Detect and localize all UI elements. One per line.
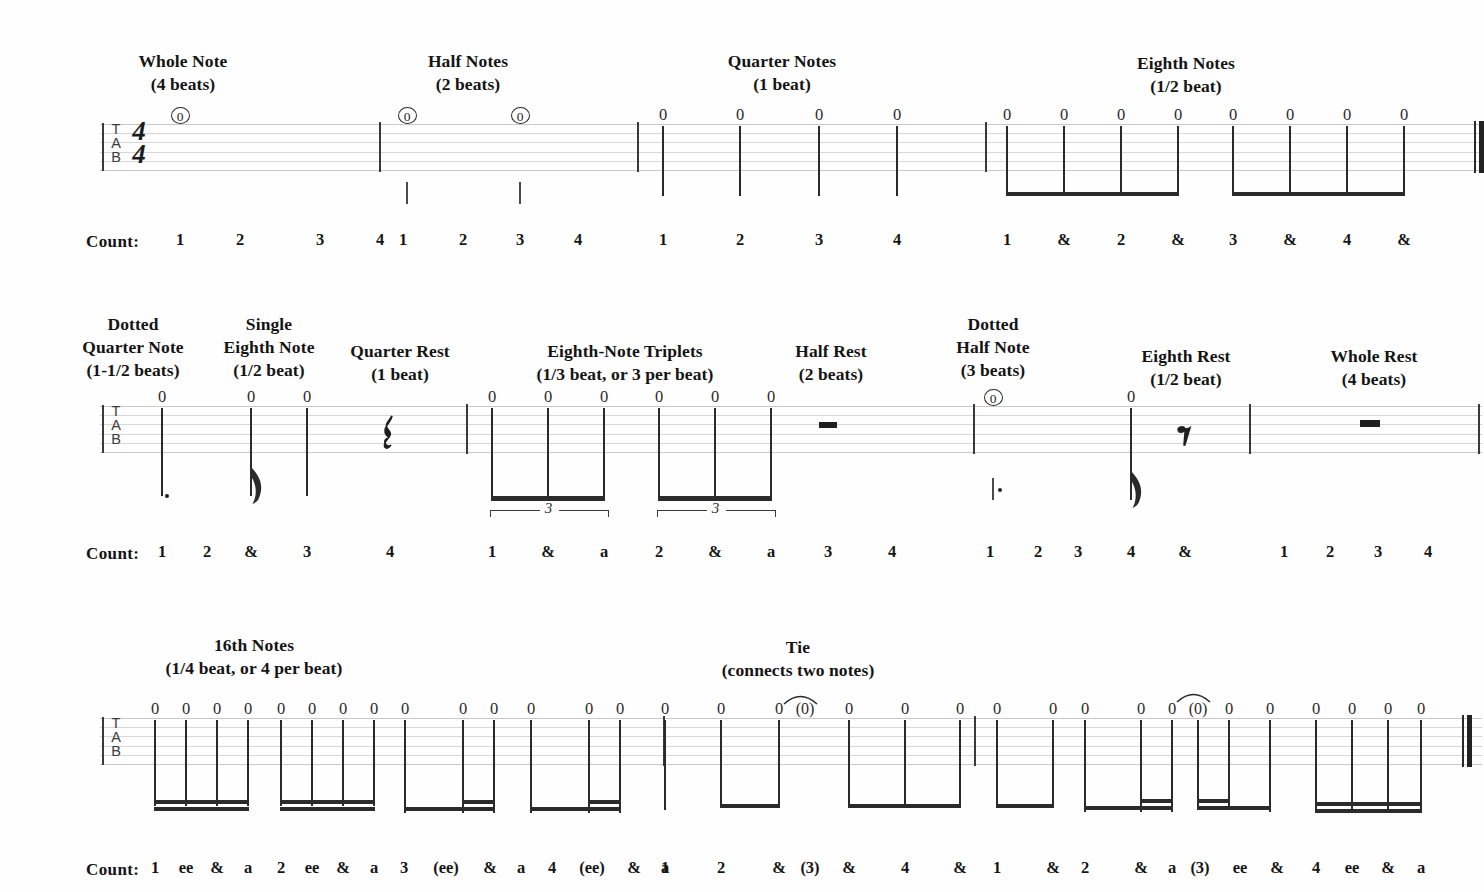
beam [404, 807, 495, 811]
fret-number: 0 [1305, 701, 1327, 717]
label-title: Half Notes [373, 50, 563, 73]
count-beat: & [200, 860, 234, 876]
fret-number: 0 [175, 701, 197, 717]
fret-number-tied: (0) [1183, 701, 1213, 717]
fret-number: 0 [296, 389, 318, 405]
fret-number: 0 [894, 701, 916, 717]
staff-line [100, 718, 1482, 719]
count-beat: a [1404, 860, 1438, 876]
final-barline-thin [1462, 715, 1464, 767]
fret-number: 0 [151, 389, 173, 405]
fret-number: 0 [1410, 701, 1432, 717]
count-row-label: Count: [86, 860, 139, 880]
final-barline-thick [1479, 121, 1484, 173]
example-label-whole-note: Whole Note(4 beats) [88, 50, 278, 96]
count-beat: 1 [648, 860, 682, 876]
count-beat: & [617, 860, 651, 876]
barline [985, 122, 987, 172]
tab-clef-letter: B [109, 744, 123, 758]
note-stem [1289, 126, 1290, 196]
eighth-flag-icon [251, 468, 263, 498]
tab-clef: TAB [109, 716, 123, 758]
triplet-number: 3 [541, 501, 557, 516]
quarter-rest-glyph [380, 414, 400, 456]
label-title: Dotted Half Note [908, 313, 1078, 359]
tab-clef-letter: T [109, 404, 123, 418]
count-beat: 3 [503, 232, 537, 248]
note-stem [1351, 720, 1352, 812]
beam [1140, 799, 1173, 803]
fret-number: 0 [729, 107, 751, 123]
count-beat: 1 [386, 232, 420, 248]
fret-number: 0 [949, 701, 971, 717]
count-beat: 3 [1216, 232, 1250, 248]
eighth-rest-glyph [1176, 424, 1196, 466]
count-beat: 2 [264, 860, 298, 876]
example-label-tie: Tie(connects two notes) [658, 636, 938, 682]
tab-clef-letter: A [109, 730, 123, 744]
staff-start-barline [102, 405, 104, 453]
fret-number: 0 [609, 701, 631, 717]
fret-number: 0 [332, 701, 354, 717]
fret-number: 0 [1120, 389, 1142, 405]
tab-clef-letter: B [109, 432, 123, 446]
count-beat: 1 [163, 232, 197, 248]
count-beat: 2 [1068, 860, 1102, 876]
count-beat: & [1161, 232, 1195, 248]
beam [280, 807, 375, 811]
note-stem [1420, 720, 1421, 812]
count-beat: a [754, 544, 788, 560]
fret-number: 0 [1167, 107, 1189, 123]
note-stem [342, 720, 343, 806]
fret-number-circled: 0 [171, 107, 190, 124]
staff-start-barline [102, 717, 104, 765]
barline [466, 404, 468, 454]
fret-number: 0 [520, 701, 542, 717]
staff-line [100, 755, 1482, 756]
beam [154, 800, 249, 804]
note-stem [996, 720, 997, 808]
note-stem [603, 408, 604, 500]
note-stem-stub [992, 478, 993, 500]
note-stem [1120, 126, 1121, 196]
count-beat: 4 [880, 232, 914, 248]
count-beat: 2 [1313, 544, 1347, 560]
fret-number: 0 [986, 701, 1008, 717]
staff-line [100, 746, 1482, 747]
count-beat: 4 [535, 860, 569, 876]
fret-number: 0 [648, 389, 670, 405]
note-stem [896, 126, 897, 196]
note-stem [547, 408, 548, 500]
fret-number-circled: 0 [398, 107, 417, 124]
count-beat: 1 [475, 544, 509, 560]
count-beat: 2 [223, 232, 257, 248]
tab-clef-letter: T [109, 716, 123, 730]
fret-number: 0 [1341, 701, 1363, 717]
staff-line [100, 142, 1482, 143]
augmentation-dot [998, 488, 1002, 492]
fret-number: 0 [1393, 107, 1415, 123]
fret-number: 0 [578, 701, 600, 717]
count-beat: ee [1335, 860, 1369, 876]
label-title: 16th Notes [89, 634, 419, 657]
fret-number: 0 [240, 389, 262, 405]
count-beat: 2 [704, 860, 738, 876]
staff-line [100, 124, 1482, 125]
count-beat: 3 [1361, 544, 1395, 560]
label-title: Quarter Notes [687, 50, 877, 73]
count-beat: & [698, 544, 732, 560]
fret-number: 0 [886, 107, 908, 123]
fret-number: 0 [838, 701, 860, 717]
count-beat: & [1273, 232, 1307, 248]
tab-staff-row-1 [100, 124, 1482, 170]
count-beat: & [762, 860, 796, 876]
count-beat: ee [295, 860, 329, 876]
note-stem [530, 720, 531, 813]
fret-number: 0 [1130, 701, 1152, 717]
label-title: Whole Note [88, 50, 278, 73]
count-beat: 4 [1330, 232, 1364, 248]
count-beat: 2 [642, 544, 676, 560]
barline [973, 404, 975, 454]
count-beat: 3 [802, 232, 836, 248]
fret-number: 0 [1074, 701, 1096, 717]
